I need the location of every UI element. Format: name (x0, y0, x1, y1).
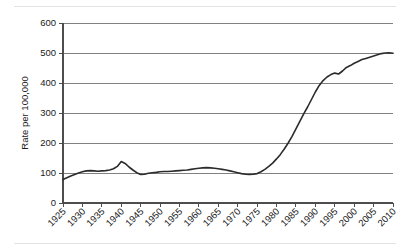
x-tick-label-1930: 1930 (65, 206, 88, 229)
x-tick-label-1970: 1970 (220, 206, 243, 229)
y-tick-label-300: 300 (40, 107, 56, 118)
y-tick-label-200: 200 (40, 137, 56, 148)
x-tick-label-1940: 1940 (103, 206, 126, 229)
x-tick-label-2005: 2005 (356, 206, 379, 229)
y-tick-label-600: 600 (40, 17, 56, 28)
y-tick-label-0: 0 (51, 197, 56, 208)
line-chart-svg: 0100200300400500600 19251930193519401945… (0, 0, 410, 252)
y-tick-label-100: 100 (40, 167, 56, 178)
x-tick-label-1925: 1925 (45, 206, 68, 229)
x-tick-label-1955: 1955 (162, 206, 185, 229)
gridlines (63, 23, 393, 173)
x-tick-label-1935: 1935 (84, 206, 107, 229)
x-tick-label-1950: 1950 (142, 206, 165, 229)
x-axis-tick-labels: 1925193019351940194519501955196019651970… (45, 206, 398, 229)
x-tick-label-1975: 1975 (239, 206, 262, 229)
x-tick-label-1965: 1965 (200, 206, 223, 229)
y-tick-label-500: 500 (40, 47, 56, 58)
x-tick-label-1960: 1960 (181, 206, 204, 229)
x-tick-label-1980: 1980 (259, 206, 282, 229)
top-divider-rule (14, 6, 396, 7)
data-series-line (63, 53, 393, 180)
x-tick-label-2000: 2000 (336, 206, 359, 229)
bottom-divider-rule (14, 243, 396, 244)
x-tick-label-1985: 1985 (278, 206, 301, 229)
y-axis-title: Rate per 100,000 (19, 76, 30, 149)
x-tick-label-1995: 1995 (317, 206, 340, 229)
chart-figure: 0100200300400500600 19251930193519401945… (0, 0, 410, 252)
x-axis-ticks (63, 203, 393, 207)
x-tick-label-1945: 1945 (123, 206, 146, 229)
y-tick-label-400: 400 (40, 77, 56, 88)
y-axis-tick-labels: 0100200300400500600 (40, 17, 56, 208)
x-tick-label-2010: 2010 (375, 206, 398, 229)
x-tick-label-1990: 1990 (298, 206, 321, 229)
